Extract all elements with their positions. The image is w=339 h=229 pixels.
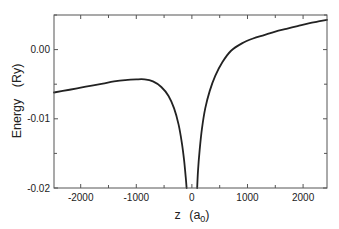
y-axis-label: Energy: [10, 98, 24, 138]
x-axis-label: z: [174, 208, 180, 222]
x-tick-label: 2000: [292, 192, 315, 203]
energy-vs-z-chart: -2000-10000100020000.00-0.01-0.02 z (a0)…: [0, 0, 339, 229]
x-tick-label: -1000: [124, 192, 150, 203]
x-tick-label: 1000: [236, 192, 259, 203]
y-tick-label: 0.00: [31, 44, 51, 55]
y-axis-title: Energy (Ry): [10, 64, 24, 139]
x-tick-label: -2000: [68, 192, 94, 203]
x-axis-unit-close: ): [205, 208, 209, 222]
y-axis-unit: (Ry): [10, 64, 24, 88]
y-tick-label: -0.01: [27, 113, 50, 124]
y-tick-label: -0.02: [27, 183, 50, 194]
chart-background: [0, 0, 339, 229]
x-tick-label: 0: [189, 192, 195, 203]
x-axis-unit: a: [193, 208, 200, 222]
